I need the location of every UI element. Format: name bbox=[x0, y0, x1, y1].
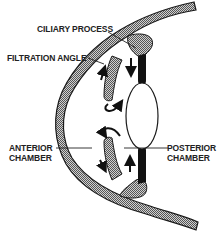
label-filtration-angle: FILTRATION ANGLE bbox=[7, 53, 86, 63]
iris-lower bbox=[104, 137, 122, 180]
eye-diagram-graphic bbox=[0, 0, 218, 234]
eye-diagram: CILIARY PROCESS FILTRATION ANGLE ANTERIO… bbox=[0, 0, 218, 234]
iris-upper bbox=[104, 56, 122, 101]
label-anterior-line2: CHAMBER bbox=[9, 153, 53, 163]
zonule-lower bbox=[138, 146, 146, 184]
label-posterior-line2: CHAMBER bbox=[167, 153, 216, 163]
label-posterior-line1: POSTERIOR bbox=[167, 143, 216, 153]
flow-curl-upper bbox=[105, 104, 120, 111]
label-anterior-line1: ANTERIOR bbox=[9, 143, 53, 153]
flow-arrow-upper-left bbox=[101, 70, 104, 80]
flow-arrow-lower-left bbox=[100, 160, 104, 168]
label-anterior-chamber: ANTERIOR CHAMBER bbox=[9, 143, 53, 163]
zonule-upper bbox=[138, 54, 146, 86]
flow-curl-lower bbox=[103, 128, 120, 136]
label-posterior-chamber: POSTERIOR CHAMBER bbox=[167, 143, 216, 163]
lens bbox=[126, 83, 158, 149]
label-ciliary-process: CILIARY PROCESS bbox=[37, 24, 113, 34]
